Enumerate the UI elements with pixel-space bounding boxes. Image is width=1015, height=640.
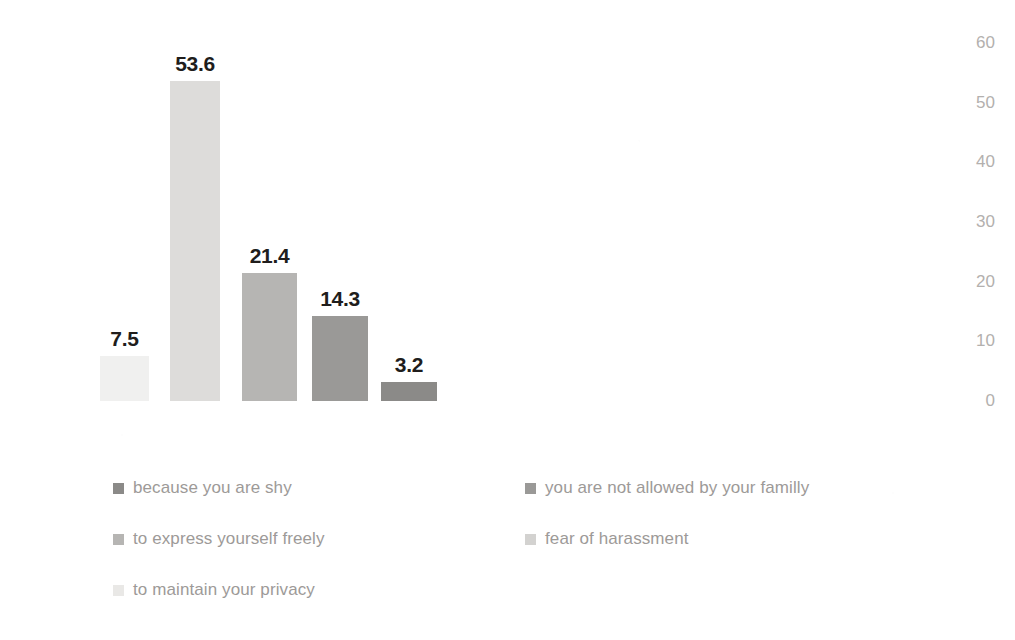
bar xyxy=(242,273,297,401)
bar xyxy=(100,356,149,401)
y-axis: 6050403020100 xyxy=(945,0,1015,440)
chart-page: 7.553.621.414.33.2 6050403020100 because… xyxy=(0,0,1015,640)
legend-swatch-icon xyxy=(525,483,536,494)
bar-value-label: 3.2 xyxy=(367,353,451,377)
legend-item[interactable]: to express yourself freely xyxy=(113,529,325,549)
legend-swatch-icon xyxy=(525,534,536,545)
bar xyxy=(170,81,220,401)
bar xyxy=(312,316,368,401)
bar xyxy=(381,382,437,401)
legend-item[interactable]: fear of harassment xyxy=(525,529,689,549)
y-axis-tick-label: 30 xyxy=(976,212,995,232)
legend-item-label: you are not allowed by your familly xyxy=(545,478,809,498)
legend-swatch-icon xyxy=(113,585,124,596)
y-axis-tick-label: 60 xyxy=(976,33,995,53)
legend-item-label: fear of harassment xyxy=(545,529,689,549)
plot-area: 7.553.621.414.33.2 6050403020100 xyxy=(0,0,1015,440)
y-axis-tick-label: 10 xyxy=(976,331,995,351)
y-axis-tick-label: 0 xyxy=(986,391,995,411)
bar-value-label: 7.5 xyxy=(86,327,163,351)
y-axis-tick-label: 50 xyxy=(976,93,995,113)
legend-item[interactable]: you are not allowed by your familly xyxy=(525,478,809,498)
legend-item-label: to express yourself freely xyxy=(133,529,325,549)
legend-item-label: to maintain your privacy xyxy=(133,580,315,600)
y-axis-tick-label: 20 xyxy=(976,272,995,292)
bar-value-label: 14.3 xyxy=(298,287,382,311)
legend-swatch-icon xyxy=(113,483,124,494)
bar-series: 7.553.621.414.33.2 xyxy=(0,0,1015,440)
legend-item-label: because you are shy xyxy=(133,478,292,498)
legend-item[interactable]: to maintain your privacy xyxy=(113,580,315,600)
legend-item[interactable]: because you are shy xyxy=(113,478,292,498)
chart-legend: because you are shyyou are not allowed b… xyxy=(113,478,973,628)
bar-value-label: 53.6 xyxy=(156,52,234,76)
y-axis-tick-label: 40 xyxy=(976,152,995,172)
legend-swatch-icon xyxy=(113,534,124,545)
bar-value-label: 21.4 xyxy=(228,244,311,268)
